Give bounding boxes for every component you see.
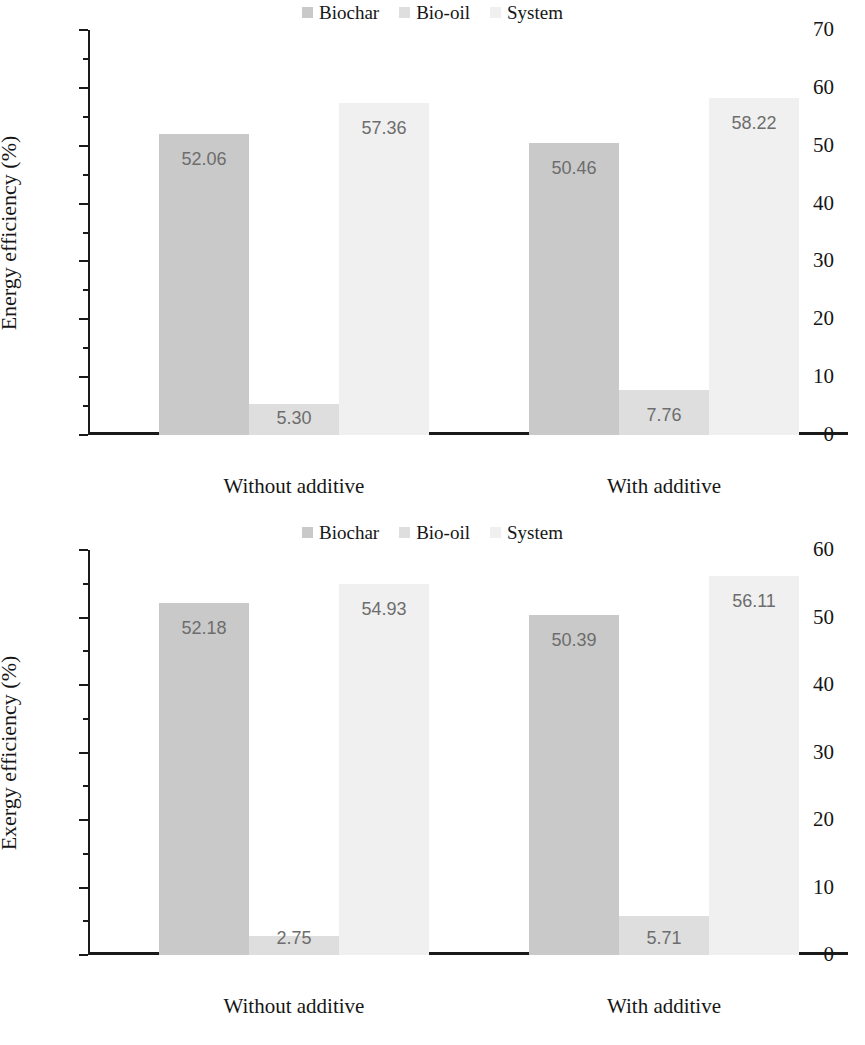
legend-swatch-icon	[302, 527, 313, 538]
y-axis-major-tick	[79, 376, 88, 378]
legend-item-biochar: Biochar	[302, 3, 379, 22]
energy-efficiency-chart: BiocharBio-oilSystem Energy efficiency (…	[0, 0, 865, 520]
x-axis-category-label: Without additive	[224, 474, 365, 499]
legend-label: System	[507, 523, 563, 542]
legend-label: System	[507, 3, 563, 22]
y-axis-minor-tick	[83, 853, 88, 855]
bar-value-label: 5.30	[249, 408, 339, 429]
bar-biochar	[159, 603, 249, 955]
bar-biochar	[529, 143, 619, 435]
y-axis-major-tick	[79, 434, 88, 436]
y-axis-major-tick	[79, 87, 88, 89]
y-axis-major-tick	[79, 684, 88, 686]
y-axis-major-tick	[79, 617, 88, 619]
y-axis-tick-label: 10	[813, 875, 834, 900]
bar-system	[709, 576, 799, 955]
plot-area: 01020304050607052.065.3057.36Without add…	[88, 30, 848, 435]
y-axis-tick-label: 30	[813, 248, 834, 273]
bar-value-label: 7.76	[619, 405, 709, 426]
legend-item-system: System	[490, 523, 563, 542]
bar-value-label: 50.46	[529, 158, 619, 179]
legend-label: Biochar	[319, 523, 379, 542]
bar-biochar	[529, 615, 619, 955]
legend-swatch-icon	[490, 527, 501, 538]
y-axis-title: Energy efficiency (%)	[0, 135, 22, 330]
y-axis-major-tick	[79, 887, 88, 889]
y-axis-minor-tick	[83, 347, 88, 349]
y-axis-major-tick	[79, 145, 88, 147]
y-axis-line	[88, 30, 90, 435]
bar-system	[709, 98, 799, 435]
y-axis-minor-tick	[83, 583, 88, 585]
y-axis-tick-label: 10	[813, 364, 834, 389]
legend-label: Bio-oil	[416, 3, 470, 22]
legend-swatch-icon	[399, 7, 410, 18]
y-axis-tick-label: 50	[813, 133, 834, 158]
chart-legend: BiocharBio-oilSystem	[0, 0, 865, 24]
y-axis-major-tick	[79, 954, 88, 956]
y-axis-minor-tick	[83, 174, 88, 176]
legend-label: Biochar	[319, 3, 379, 22]
legend-label: Bio-oil	[416, 523, 470, 542]
bar-value-label: 52.06	[159, 149, 249, 170]
y-axis-minor-tick	[83, 232, 88, 234]
y-axis-minor-tick	[83, 289, 88, 291]
bar-value-label: 50.39	[529, 630, 619, 651]
y-axis-minor-tick	[83, 116, 88, 118]
legend-item-biochar: Biochar	[302, 523, 379, 542]
bar-value-label: 57.36	[339, 118, 429, 139]
x-axis-category-label: With additive	[607, 994, 721, 1019]
bar-value-label: 54.93	[339, 599, 429, 620]
exergy-efficiency-chart: BiocharBio-oilSystem Exergy efficiency (…	[0, 520, 865, 1045]
legend-swatch-icon	[490, 7, 501, 18]
y-axis-major-tick	[79, 260, 88, 262]
legend-item-bio-oil: Bio-oil	[399, 523, 470, 542]
y-axis-minor-tick	[83, 405, 88, 407]
y-axis-tick-label: 60	[813, 537, 834, 562]
y-axis-tick-label: 60	[813, 75, 834, 100]
y-axis-tick-label: 70	[813, 17, 834, 42]
bar-value-label: 56.11	[709, 591, 799, 612]
y-axis-tick-label: 0	[824, 422, 835, 447]
legend-swatch-icon	[302, 7, 313, 18]
plot-area: 010203040506052.182.7554.93Without addit…	[88, 550, 848, 955]
bar-value-label: 5.71	[619, 928, 709, 949]
bar-system	[339, 103, 429, 435]
chart-legend: BiocharBio-oilSystem	[0, 520, 865, 544]
legend-item-system: System	[490, 3, 563, 22]
y-axis-tick-label: 50	[813, 605, 834, 630]
y-axis-tick-label: 0	[824, 942, 835, 967]
y-axis-minor-tick	[83, 58, 88, 60]
y-axis-tick-label: 40	[813, 672, 834, 697]
y-axis-minor-tick	[83, 718, 88, 720]
bar-value-label: 2.75	[249, 928, 339, 949]
legend-swatch-icon	[399, 527, 410, 538]
y-axis-line	[88, 550, 90, 955]
x-axis-category-label: Without additive	[224, 994, 365, 1019]
y-axis-major-tick	[79, 29, 88, 31]
legend-item-bio-oil: Bio-oil	[399, 3, 470, 22]
y-axis-tick-label: 30	[813, 740, 834, 765]
y-axis-major-tick	[79, 203, 88, 205]
y-axis-tick-label: 20	[813, 306, 834, 331]
y-axis-tick-label: 20	[813, 807, 834, 832]
y-axis-major-tick	[79, 819, 88, 821]
y-axis-minor-tick	[83, 785, 88, 787]
y-axis-major-tick	[79, 549, 88, 551]
y-axis-major-tick	[79, 318, 88, 320]
y-axis-title: Exergy efficiency (%)	[0, 655, 22, 850]
y-axis-minor-tick	[83, 920, 88, 922]
y-axis-minor-tick	[83, 650, 88, 652]
bar-value-label: 52.18	[159, 618, 249, 639]
bar-system	[339, 584, 429, 955]
y-axis-tick-label: 40	[813, 191, 834, 216]
bar-biochar	[159, 134, 249, 435]
x-axis-category-label: With additive	[607, 474, 721, 499]
bar-value-label: 58.22	[709, 113, 799, 134]
y-axis-major-tick	[79, 752, 88, 754]
